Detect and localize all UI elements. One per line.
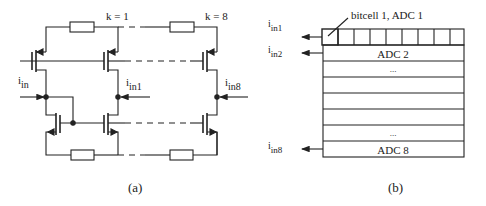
top-resistor-1 bbox=[46, 22, 118, 52]
label-iin8: iin8 bbox=[225, 76, 241, 92]
bottom-resistor-1 bbox=[71, 150, 94, 160]
row-adc2: ADC 2 bbox=[377, 48, 408, 60]
caption-b: (b) bbox=[388, 180, 403, 195]
label-k8: k = 8 bbox=[205, 10, 228, 22]
top-transistor-mid bbox=[104, 49, 118, 97]
node bbox=[71, 121, 75, 125]
adc-array-b bbox=[302, 18, 464, 157]
bottom-transistor-right bbox=[203, 97, 217, 155]
row-ellipsis-1: ... bbox=[390, 64, 397, 74]
top-transistor-left bbox=[32, 49, 46, 97]
label-iin: iin bbox=[18, 74, 29, 90]
label-k1: k = 1 bbox=[106, 10, 129, 22]
bottom-resistor-8 bbox=[170, 150, 193, 160]
label-iin1: iin1 bbox=[126, 76, 142, 92]
bottom-transistor-left bbox=[46, 97, 71, 155]
row-ellipsis-2: ... bbox=[390, 128, 397, 138]
node bbox=[44, 95, 48, 99]
label-b-iin1: iin1 bbox=[268, 18, 282, 33]
node bbox=[215, 95, 219, 99]
label-b-iin2: iin2 bbox=[268, 44, 282, 59]
caption-a: (a) bbox=[128, 180, 142, 195]
figure-canvas: k = 1 k = 8 iin iin1 iin8 (a) bitcell 1,… bbox=[0, 0, 486, 206]
label-b-iin8: iin8 bbox=[268, 140, 283, 155]
bitcell-row bbox=[338, 29, 464, 45]
bitcell-1 bbox=[322, 29, 338, 45]
bottom-transistor-mid bbox=[104, 97, 118, 155]
row-adc8: ADC 8 bbox=[377, 144, 409, 156]
callout-bitcell: bitcell 1, ADC 1 bbox=[351, 9, 423, 21]
node bbox=[116, 95, 120, 99]
top-resistor-8 bbox=[145, 22, 217, 52]
top-transistor-right bbox=[203, 49, 217, 97]
